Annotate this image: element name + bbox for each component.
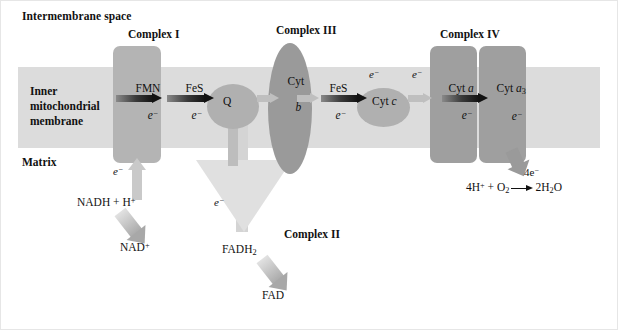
cyt-a-prefix: Cyt — [449, 82, 469, 94]
free-electron-icon-1: e− — [369, 68, 379, 81]
cyt-b-italic: b — [295, 101, 301, 113]
four-electrons-text: 4e — [524, 166, 534, 178]
fes-2-text: FeS — [330, 82, 348, 94]
four-electrons-label: 4e− — [524, 166, 539, 179]
complex-1-input-electron-icon: e− — [113, 165, 123, 178]
cyt-c-prefix: Cyt — [372, 95, 392, 107]
fadh2-label: FADH2 — [222, 243, 257, 258]
fes-complex-3-label: FeS e− — [318, 68, 347, 136]
membrane-label-line-2: mitochondrial — [30, 100, 100, 112]
water-formation-equation: 4H+ + O22H2O — [466, 181, 562, 196]
fmn-carrier-label: FMN e− — [124, 68, 160, 136]
cyt-a-electron-icon: e− — [462, 109, 473, 121]
reaction-arrow-icon — [511, 184, 533, 193]
fes-1-electron-icon: e− — [192, 109, 203, 121]
equation-h-coef: 4H — [466, 181, 480, 193]
intermembrane-space-label: Intermembrane space — [22, 10, 132, 24]
cyt-a3-electron-icon: e− — [512, 110, 523, 122]
cyt-b-label: Cyt b — [276, 62, 304, 126]
fadh2-subscript: 2 — [252, 248, 256, 257]
complex-4-label: Complex IV — [440, 28, 500, 42]
fmn-electron-icon: e− — [148, 109, 159, 121]
fes-2-electron-icon: e− — [336, 109, 347, 121]
equation-water-coef: 2H — [535, 181, 549, 193]
nadh-label: NADH + H+ — [77, 196, 135, 210]
cyt-c-italic: c — [392, 95, 397, 107]
inner-mitochondrial-membrane-label: Innermitochondrialmembrane — [30, 84, 100, 129]
cyt-a-italic: a — [468, 82, 474, 94]
cyt-b-text: Cyt — [288, 75, 305, 87]
complex-3-label: Complex III — [276, 24, 336, 38]
free-electron-icon-2: e− — [412, 68, 422, 81]
arrow-fadh2-to-fad — [256, 255, 284, 286]
nadh-text: NADH + H — [77, 196, 131, 208]
equation-o2-subscript: 2 — [505, 186, 509, 195]
fes-complex-1-label: FeS e− — [174, 68, 203, 136]
nad-superscript: + — [145, 241, 150, 250]
q-carrier-shape — [207, 84, 259, 129]
fes-1-text: FeS — [186, 82, 204, 94]
nadh-superscript: + — [131, 196, 136, 205]
complex-2-electron-icon: e− — [214, 196, 224, 209]
nad-plus-label: NAD+ — [120, 241, 150, 255]
equation-water-tail: O — [554, 181, 562, 193]
complex-1-label: Complex I — [128, 28, 179, 42]
complex-2-label: Complex II — [284, 228, 340, 242]
membrane-label-line-1: Inner — [30, 85, 57, 97]
fadh2-text: FADH — [222, 243, 252, 255]
arrow-nadh-to-nad — [114, 208, 142, 239]
matrix-label: Matrix — [22, 156, 56, 170]
fad-label: FAD — [262, 289, 284, 303]
cyt-c-label: Cyt c — [372, 95, 397, 109]
electron-arrow-nadh-to-complex-1 — [128, 158, 146, 198]
membrane-label-line-3: membrane — [30, 115, 83, 127]
cyt-a3-subscript: 3 — [522, 87, 526, 96]
electron-transport-chain-diagram: Intermembrane space Matrix Innermitochon… — [0, 0, 619, 331]
q-carrier-label: Q — [223, 95, 231, 109]
cyt-a3-label: Cyt a3 e− — [485, 68, 526, 137]
nad-text: NAD — [120, 241, 145, 253]
electron-arrow-cytc-to-cyta — [408, 93, 432, 104]
complex-2-shape — [196, 160, 292, 232]
four-electrons-superscript: − — [534, 166, 538, 175]
equation-o2-text: + O — [485, 181, 506, 193]
cyt-a-label: Cyt a e− — [437, 68, 474, 136]
fmn-text: FMN — [136, 82, 161, 94]
cyt-a3-prefix: Cyt — [497, 82, 517, 94]
